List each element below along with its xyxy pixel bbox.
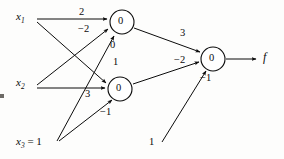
edge-x2-h1: [37, 29, 108, 85]
weight-x1-h2: 1: [113, 57, 118, 68]
weight-x3-h2: −1: [100, 107, 111, 118]
weight-x2-h1: −2: [78, 24, 89, 35]
output-label-f: f: [263, 51, 266, 63]
input-label-x2: x2: [16, 77, 25, 91]
weight-bias-out: −1: [200, 73, 211, 84]
edge-h2-out: [133, 62, 199, 84]
neural-network-diagram: x1 x2 x3 = 1 0 0 0 2 −2 0 1 3 −1 3 −2 −1…: [0, 0, 284, 159]
network-graph-svg: [0, 0, 284, 159]
neuron-output-value: 0: [209, 53, 214, 64]
scan-artifact: [0, 94, 4, 98]
edge-x1-h2: [37, 22, 106, 83]
weight-x3-h1: 0: [110, 40, 115, 51]
neuron-h2-value: 0: [116, 83, 121, 94]
bias-input-value: 1: [149, 137, 154, 148]
edge-h1-out: [134, 28, 200, 52]
weight-h2-out: −2: [174, 55, 185, 66]
input-label-x1: x1: [16, 11, 25, 25]
input-label-x3: x3 = 1: [16, 136, 42, 150]
weight-x1-h1: 2: [79, 7, 84, 18]
weight-h1-out: 3: [180, 28, 185, 39]
weight-x2-h2: 3: [85, 89, 90, 100]
neuron-h1-value: 0: [118, 16, 123, 27]
